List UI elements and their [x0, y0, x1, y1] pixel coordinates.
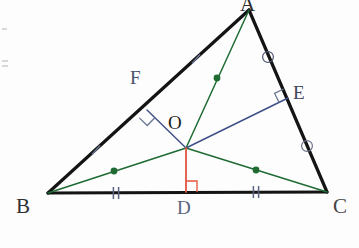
side-BC: [48, 192, 327, 193]
scan-speck: [2, 28, 7, 30]
point-label-o: O: [168, 113, 182, 132]
vertex-label-b: B: [16, 196, 30, 217]
scan-speck: [2, 65, 8, 67]
right-angle-marks-layer: [139, 89, 283, 192]
geometry-diagram: A B C D E F O: [0, 0, 359, 248]
vertex-label-c: C: [333, 196, 347, 217]
midpoint-dot-OB: [111, 168, 118, 175]
scan-speck: [2, 60, 8, 62]
right-angle-at-F: [139, 118, 155, 126]
right-angle-at-D: [186, 181, 197, 192]
perpendicular-OE: [186, 98, 288, 148]
midpoint-dot-OC: [253, 167, 260, 174]
side-AC: [249, 10, 327, 192]
side-AB: [48, 10, 249, 193]
point-label-e: E: [293, 83, 305, 102]
point-label-f: F: [130, 68, 141, 87]
segments-layer: [48, 10, 327, 193]
midpoint-dots-layer: [111, 75, 260, 175]
point-label-d: D: [177, 198, 191, 217]
midpoint-dot-OA: [214, 75, 221, 82]
vertex-label-a: A: [240, 0, 255, 15]
